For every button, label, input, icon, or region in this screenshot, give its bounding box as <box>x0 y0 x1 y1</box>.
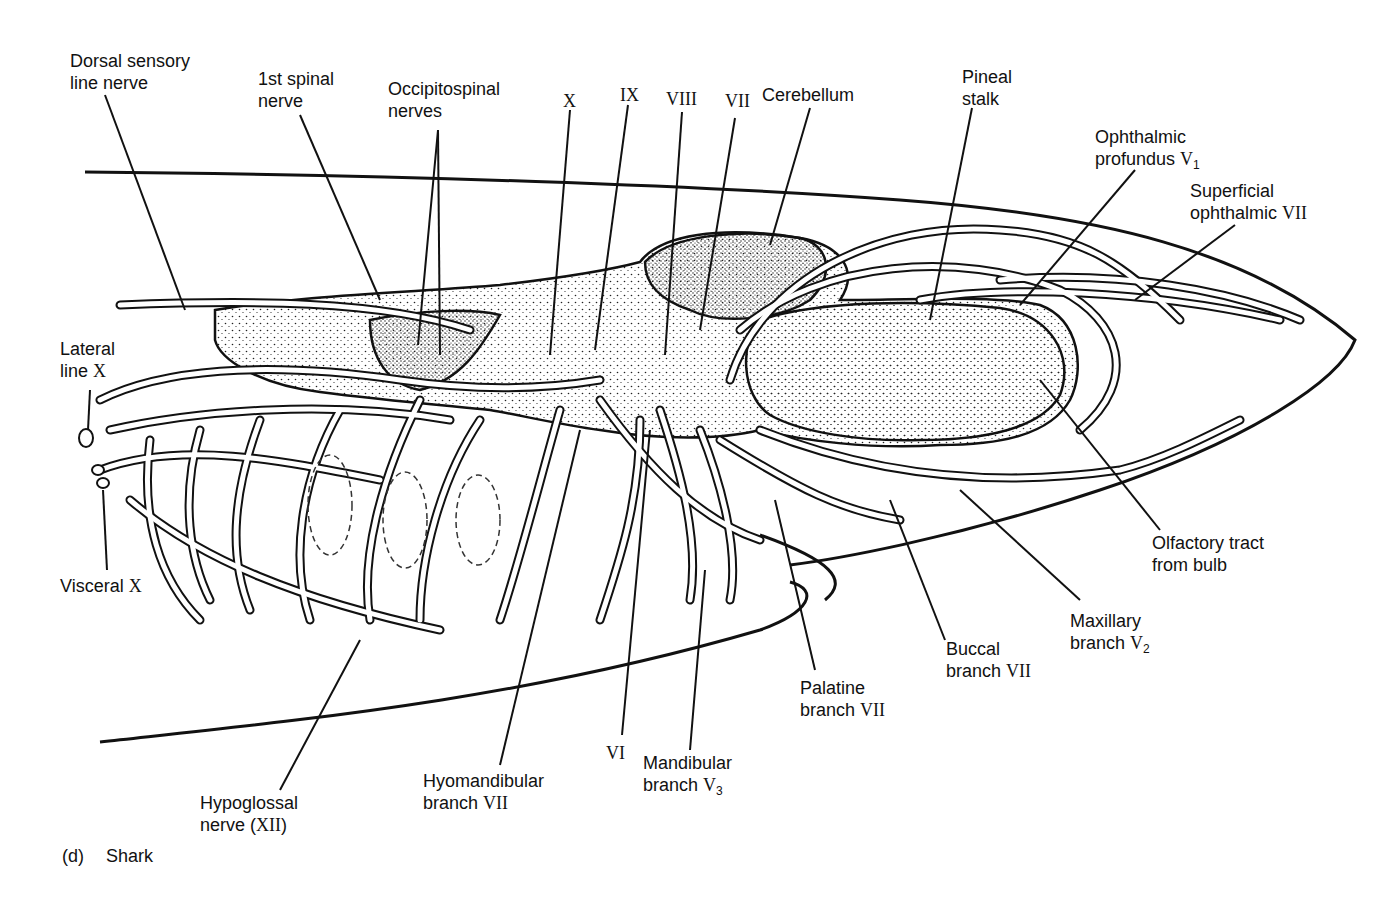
label-line: Hypoglossal <box>200 792 298 814</box>
label-line: Lateral <box>60 338 115 360</box>
label-cerebellum: Cerebellum <box>762 84 854 106</box>
label-text: branch <box>423 793 478 813</box>
nerve-numeral: V <box>703 775 716 795</box>
label-line: stalk <box>962 88 1012 110</box>
nerve-numeral: VII <box>1006 661 1031 681</box>
label-lateral-line-x: Lateral line X <box>60 338 115 382</box>
caption-title: Shark <box>106 846 153 866</box>
label-line: Superficial <box>1190 180 1307 202</box>
label-line: line X <box>60 360 115 382</box>
nerve-numeral: XII <box>256 815 281 835</box>
label-dorsal-sensory-line-nerve: Dorsal sensory line nerve <box>70 50 190 94</box>
label-mandibular-branch: Mandibular branch V3 <box>643 752 732 802</box>
label-line: profundus V1 <box>1095 148 1200 176</box>
label-occipitospinal-nerves: Occipitospinal nerves <box>388 78 500 122</box>
label-line: Hyomandibular <box>423 770 544 792</box>
label-line: branch VII <box>946 660 1031 682</box>
label-palatine-branch: Palatine branch VII <box>800 677 885 721</box>
label-pineal-stalk: Pineal stalk <box>962 66 1012 110</box>
figure-caption: (d)Shark <box>62 846 175 867</box>
leader-lines <box>88 95 1235 790</box>
label-text: ophthalmic <box>1190 203 1277 223</box>
label-nerve-vii: VII <box>725 90 750 112</box>
label-text: nerve ( <box>200 815 256 835</box>
subscript: 2 <box>1143 642 1150 656</box>
label-ophthalmic-profundus: Ophthalmic profundus V1 <box>1095 126 1200 176</box>
label-text: branch <box>946 661 1001 681</box>
nerve-numeral: VII <box>860 700 885 720</box>
label-line: nerves <box>388 100 500 122</box>
nerve-numeral: VII <box>1282 203 1307 223</box>
label-text: line <box>60 361 88 381</box>
label-line: Buccal <box>946 638 1031 660</box>
label-nerve-ix: IX <box>620 84 639 106</box>
label-line: Palatine <box>800 677 885 699</box>
label-nerve-x: X <box>563 90 576 112</box>
label-line: nerve (XII) <box>200 814 298 836</box>
subscript: 1 <box>1193 158 1200 172</box>
nerve-numeral: X <box>129 576 142 596</box>
label-line: Pineal <box>962 66 1012 88</box>
label-olfactory-tract: Olfactory tract from bulb <box>1152 532 1264 576</box>
label-line: branch VII <box>800 699 885 721</box>
label-text: ) <box>281 815 287 835</box>
label-visceral-x: Visceral X <box>60 575 142 597</box>
label-line: Olfactory tract <box>1152 532 1264 554</box>
label-line: branch VII <box>423 792 544 814</box>
caption-letter: (d) <box>62 846 84 866</box>
label-nerve-vi: VI <box>606 742 625 764</box>
nerve-numeral: V <box>1130 633 1143 653</box>
label-line: line nerve <box>70 72 190 94</box>
label-text: branch <box>800 700 855 720</box>
label-line: Mandibular <box>643 752 732 774</box>
label-buccal-branch: Buccal branch VII <box>946 638 1031 682</box>
label-text: branch <box>643 775 698 795</box>
label-line: Dorsal sensory <box>70 50 190 72</box>
nerve-numeral: V <box>1180 149 1193 169</box>
label-text: branch <box>1070 633 1125 653</box>
label-hyomandibular-branch: Hyomandibular branch VII <box>423 770 544 814</box>
label-line: ophthalmic VII <box>1190 202 1307 224</box>
label-line: Ophthalmic <box>1095 126 1200 148</box>
label-maxillary-branch: Maxillary branch V2 <box>1070 610 1150 660</box>
label-hypoglossal-nerve: Hypoglossal nerve (XII) <box>200 792 298 836</box>
nerve-numeral: X <box>93 361 106 381</box>
label-line: 1st spinal <box>258 68 334 90</box>
label-line: from bulb <box>1152 554 1264 576</box>
label-text: profundus <box>1095 149 1175 169</box>
label-line: branch V2 <box>1070 632 1150 660</box>
cut-nerve-ends <box>79 429 109 488</box>
label-nerve-viii: VIII <box>666 88 697 110</box>
label-line: branch V3 <box>643 774 732 802</box>
label-line: nerve <box>258 90 334 112</box>
label-superficial-ophthalmic: Superficial ophthalmic VII <box>1190 180 1307 224</box>
label-text: Visceral <box>60 576 124 596</box>
nerve-numeral: VII <box>483 793 508 813</box>
label-first-spinal-nerve: 1st spinal nerve <box>258 68 334 112</box>
subscript: 3 <box>716 784 723 798</box>
label-line: Maxillary <box>1070 610 1150 632</box>
label-line: Occipitospinal <box>388 78 500 100</box>
